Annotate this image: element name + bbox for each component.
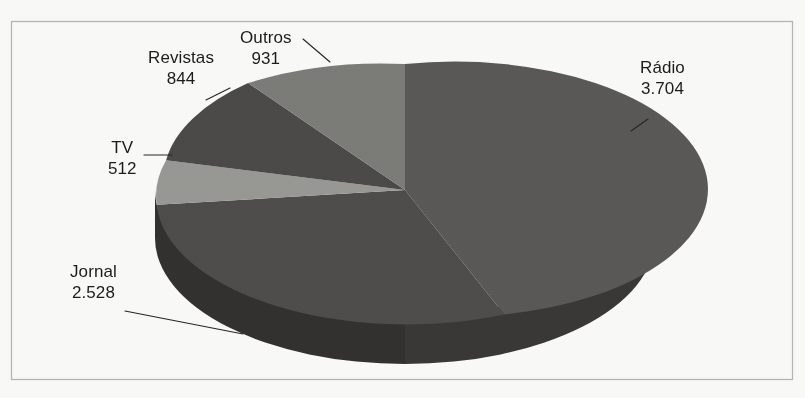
label-tv-value: 512 — [108, 159, 137, 180]
label-revistas-value: 844 — [148, 69, 214, 90]
label-outros: Outros 931 — [240, 28, 292, 69]
label-jornal-name: Jornal — [70, 262, 117, 283]
label-tv-name: TV — [108, 138, 137, 159]
label-radio-name: Rádio — [640, 58, 685, 79]
label-outros-name: Outros — [240, 28, 292, 49]
chart-figure: Rádio 3.704 Outros 931 Revistas 844 TV 5… — [0, 0, 805, 398]
label-jornal-value: 2.528 — [70, 283, 117, 304]
label-radio-value: 3.704 — [640, 79, 685, 100]
label-tv: TV 512 — [108, 138, 137, 179]
label-outros-value: 931 — [240, 49, 292, 70]
label-radio: Rádio 3.704 — [640, 58, 685, 99]
label-revistas-name: Revistas — [148, 48, 214, 69]
label-jornal: Jornal 2.528 — [70, 262, 117, 303]
label-revistas: Revistas 844 — [148, 48, 214, 89]
